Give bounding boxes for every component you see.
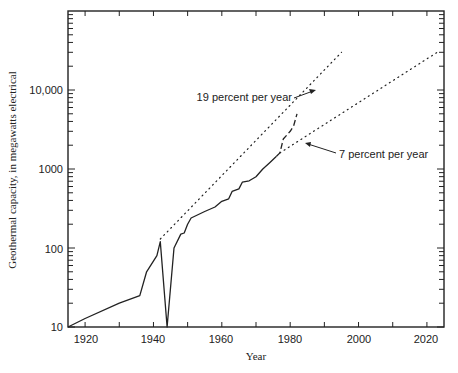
x-tick-label: 1940 <box>141 333 165 345</box>
chart: 1920 1940 1960 1980 2000 2020 10 100 100… <box>0 0 458 373</box>
plot-frame <box>68 11 444 327</box>
series-dotted <box>280 52 437 153</box>
y-axis-title: Geothermal capacity, in megawatts electr… <box>6 71 18 269</box>
annotation-19-percent: 19 percent per year <box>197 91 293 103</box>
series-dashed <box>277 114 298 157</box>
x-tick-label: 1920 <box>74 333 98 345</box>
series-solid <box>68 156 277 327</box>
axis-ticks <box>68 11 444 327</box>
annotation-7-percent: 7 percent per year <box>339 148 429 160</box>
x-tick-label: 2020 <box>414 333 438 345</box>
x-axis-title: Year <box>246 350 267 362</box>
x-tick-label: 2000 <box>347 333 371 345</box>
arrowhead-icon <box>309 89 316 94</box>
x-tick-label: 1960 <box>209 333 233 345</box>
y-tick-label: 10 <box>51 321 63 333</box>
arrowhead-icon <box>305 142 311 147</box>
y-tick-label: 10,000 <box>29 84 63 96</box>
x-tick-label: 1980 <box>278 333 302 345</box>
x-tick-labels: 1920 1940 1960 1980 2000 2020 <box>74 333 438 345</box>
annotation-7-arrow <box>308 144 336 153</box>
y-tick-labels: 10 100 1000 10,000 <box>29 84 63 333</box>
y-tick-label: 100 <box>45 243 63 255</box>
y-tick-label: 1000 <box>39 163 63 175</box>
